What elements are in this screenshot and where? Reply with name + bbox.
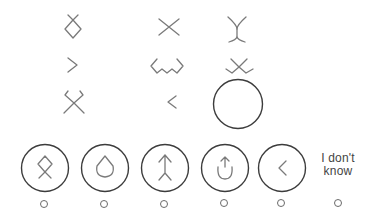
dont-know-option[interactable]: I don't know	[310, 152, 366, 178]
chevron-left-option-icon	[279, 161, 286, 175]
radio-option-b[interactable]	[100, 200, 108, 208]
x-bracket-top-icon	[61, 88, 87, 116]
radio-option-a[interactable]	[40, 200, 48, 208]
diamond-crossed-top-icon	[60, 12, 86, 42]
teardrop-icon	[97, 156, 114, 177]
arrow-up-in-u-icon	[218, 157, 232, 179]
wavy-w-icon	[149, 56, 185, 76]
answer-option-d[interactable]	[200, 143, 250, 193]
curved-x-icon	[224, 14, 250, 44]
x-cross-icon	[157, 17, 181, 37]
arrow-up-split-icon	[159, 155, 171, 180]
answer-option-e[interactable]	[257, 143, 307, 193]
diamond-crossed-bottom-icon	[38, 156, 52, 178]
radio-option-d[interactable]	[220, 199, 228, 207]
radio-option-c[interactable]	[160, 200, 168, 208]
missing-answer-circle	[212, 78, 264, 130]
answer-option-b[interactable]	[80, 143, 130, 193]
answer-option-a[interactable]	[20, 143, 70, 193]
x-wave-bottom-icon	[222, 56, 256, 78]
chevron-right-icon	[66, 56, 80, 74]
answer-option-c[interactable]	[140, 143, 190, 193]
radio-option-e[interactable]	[277, 199, 285, 207]
chevron-left-icon	[166, 94, 178, 110]
radio-dont-know[interactable]	[334, 199, 342, 207]
